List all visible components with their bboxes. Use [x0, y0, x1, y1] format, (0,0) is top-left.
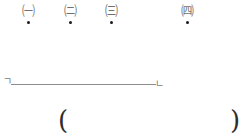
circled-letter-nieun: ㈡: [59, 2, 81, 19]
circled-letter-giyeok: ㈠: [17, 2, 39, 19]
point-dot-4: [186, 21, 189, 24]
segment-endpoint-label-right: ㄴ: [155, 79, 164, 89]
answer-paren-close: ): [230, 107, 240, 133]
point-dot-2: [69, 21, 72, 24]
worksheet-figure: ㈠ ㈡ ㈢ ㈣ ㄱ ㄴ ( ): [0, 0, 249, 135]
circled-letter-rieul: ㈣: [176, 2, 198, 19]
segment-line: [11, 84, 156, 85]
segment-endpoint-label-left: ㄱ: [3, 77, 12, 87]
marker-group-4: ㈣: [176, 2, 198, 24]
point-dot-1: [27, 21, 30, 24]
circled-letter-digeut: ㈢: [100, 2, 122, 19]
marker-group-2: ㈡: [59, 2, 81, 24]
marker-group-1: ㈠: [17, 2, 39, 24]
answer-paren-open: (: [58, 107, 68, 133]
point-dot-3: [110, 21, 113, 24]
marker-group-3: ㈢: [100, 2, 122, 24]
